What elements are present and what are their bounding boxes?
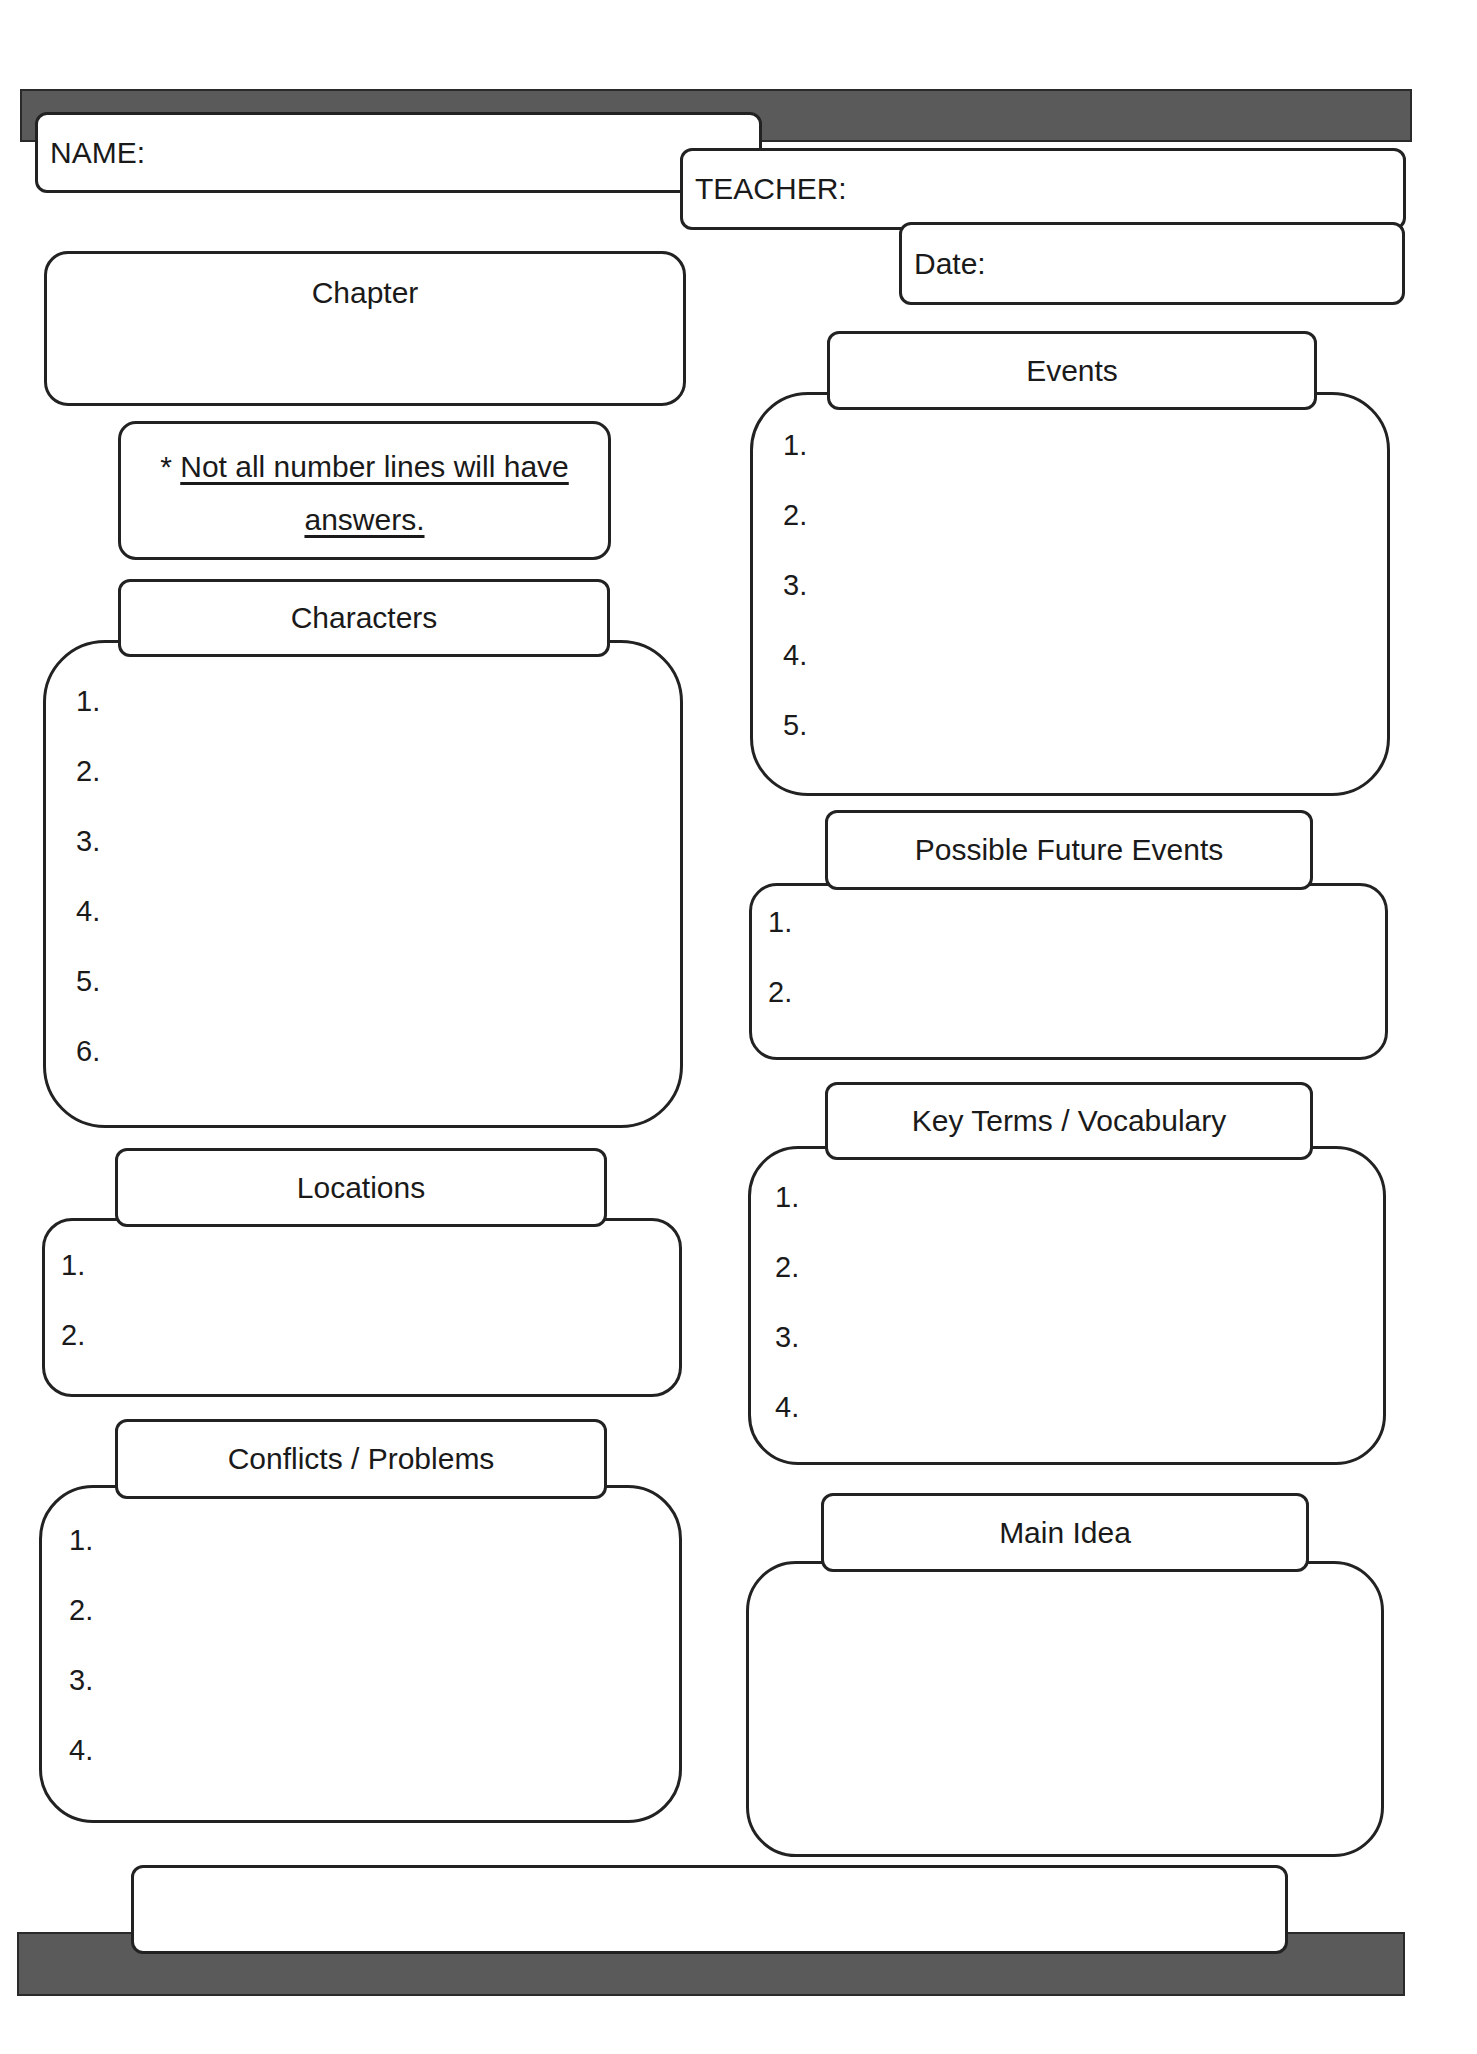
list-number: 2. — [61, 1319, 85, 1352]
future-events-box[interactable]: 1. 2. — [749, 883, 1388, 1060]
teacher-field[interactable]: TEACHER: — [680, 148, 1406, 230]
events-header: Events — [827, 331, 1317, 410]
events-box[interactable]: 1. 2. 3. 4. 5. — [750, 392, 1390, 796]
note-asterisk: * — [160, 450, 172, 483]
events-title: Events — [1026, 354, 1118, 388]
main-idea-title: Main Idea — [999, 1516, 1131, 1550]
bottom-blank-box[interactable] — [131, 1865, 1288, 1954]
note-box: * Not all number lines will have answers… — [118, 421, 611, 560]
list-number: 1. — [76, 685, 100, 718]
list-number: 2. — [783, 499, 807, 532]
list-number: 2. — [768, 976, 792, 1009]
list-number: 2. — [775, 1251, 799, 1284]
date-field[interactable]: Date: — [899, 222, 1405, 305]
list-number: 1. — [768, 906, 792, 939]
conflicts-box[interactable]: 1. 2. 3. 4. — [39, 1485, 682, 1823]
list-number: 3. — [76, 825, 100, 858]
list-number: 1. — [783, 429, 807, 462]
list-number: 5. — [783, 709, 807, 742]
list-number: 4. — [69, 1734, 93, 1767]
key-terms-header: Key Terms / Vocabulary — [825, 1082, 1313, 1160]
locations-box[interactable]: 1. 2. — [42, 1218, 682, 1397]
chapter-label: Chapter — [47, 276, 683, 310]
list-number: 2. — [76, 755, 100, 788]
name-field[interactable]: NAME: — [35, 112, 762, 193]
list-number: 2. — [69, 1594, 93, 1627]
note-line1: Not all number lines will have — [180, 450, 569, 483]
list-number: 6. — [76, 1035, 100, 1068]
list-number: 4. — [775, 1391, 799, 1424]
teacher-label: TEACHER: — [695, 172, 847, 206]
characters-header: Characters — [118, 579, 610, 657]
main-idea-header: Main Idea — [821, 1493, 1309, 1572]
note-text: * Not all number lines will have answers… — [121, 440, 608, 546]
key-terms-title: Key Terms / Vocabulary — [912, 1104, 1227, 1138]
characters-box[interactable]: 1. 2. 3. 4. 5. 6. — [43, 640, 683, 1128]
list-number: 4. — [76, 895, 100, 928]
list-number: 1. — [61, 1249, 85, 1282]
main-idea-box[interactable] — [746, 1561, 1384, 1857]
list-number: 1. — [775, 1181, 799, 1214]
future-events-title: Possible Future Events — [915, 833, 1223, 867]
characters-title: Characters — [291, 601, 438, 635]
locations-header: Locations — [115, 1148, 607, 1227]
conflicts-header: Conflicts / Problems — [115, 1419, 607, 1499]
list-number: 1. — [69, 1524, 93, 1557]
list-number: 4. — [783, 639, 807, 672]
key-terms-box[interactable]: 1. 2. 3. 4. — [748, 1146, 1386, 1465]
list-number: 5. — [76, 965, 100, 998]
name-label: NAME: — [50, 136, 145, 170]
date-label: Date: — [914, 247, 986, 281]
list-number: 3. — [69, 1664, 93, 1697]
conflicts-title: Conflicts / Problems — [228, 1442, 495, 1476]
chapter-box[interactable]: Chapter — [44, 251, 686, 406]
list-number: 3. — [783, 569, 807, 602]
locations-title: Locations — [297, 1171, 425, 1205]
note-line2: answers. — [304, 503, 424, 536]
list-number: 3. — [775, 1321, 799, 1354]
future-events-header: Possible Future Events — [825, 810, 1313, 890]
